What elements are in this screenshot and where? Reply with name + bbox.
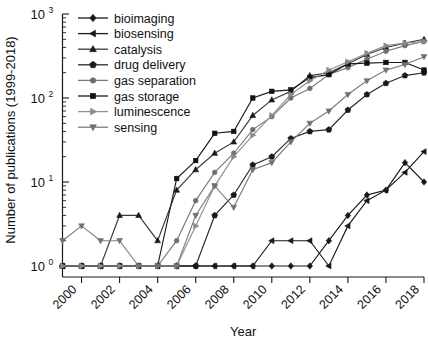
data-point-triangle-down xyxy=(231,205,237,210)
x-tick-label: 2000 xyxy=(50,282,80,312)
legend-label-drug-delivery: drug delivery xyxy=(114,58,186,72)
data-point-square xyxy=(384,60,389,65)
data-point-triangle-left xyxy=(89,30,95,37)
y-tick-label: 10 xyxy=(31,7,45,22)
data-point-circle xyxy=(90,78,96,84)
data-point-triangle-down xyxy=(193,213,199,218)
data-point-triangle-down xyxy=(364,79,370,84)
y-tick-exponent: 0 xyxy=(49,257,54,267)
data-point-triangle-down xyxy=(326,109,332,114)
data-point-square xyxy=(90,93,95,98)
x-tick-label: 2014 xyxy=(316,282,346,312)
legend-label-bioimaging: bioimaging xyxy=(114,12,175,26)
data-point-square xyxy=(250,96,255,101)
y-tick-exponent: 1 xyxy=(49,173,54,183)
data-point-diamond xyxy=(288,263,293,270)
data-point-square xyxy=(231,129,236,134)
publications-by-topic-chart: 1001011021032000200220042006200820102012… xyxy=(0,0,428,341)
data-point-pentagon xyxy=(402,72,408,78)
data-point-pentagon xyxy=(307,128,313,134)
data-point-triangle-up xyxy=(212,150,218,155)
y-tick-label: 10 xyxy=(31,91,45,106)
data-point-circle xyxy=(174,238,179,243)
x-tick-label: 2004 xyxy=(126,282,156,312)
data-point-triangle-left xyxy=(269,238,274,244)
data-point-square xyxy=(212,131,217,136)
x-axis-title: Year xyxy=(230,324,257,339)
data-point-circle xyxy=(384,49,389,54)
data-point-triangle-down xyxy=(60,239,66,244)
data-point-triangle-left xyxy=(307,238,312,244)
y-tick-label: 10 xyxy=(31,259,45,274)
data-point-square xyxy=(422,68,427,73)
series-line xyxy=(63,163,425,266)
data-point-diamond xyxy=(269,263,274,270)
series-biosensing xyxy=(59,149,426,269)
data-point-diamond xyxy=(90,14,96,22)
x-tick-label: 2012 xyxy=(278,282,308,312)
x-tick-label: 2008 xyxy=(202,282,232,312)
legend-label-catalysis: catalysis xyxy=(114,43,162,57)
data-point-triangle-down xyxy=(250,168,256,173)
legend-label-biosensing: biosensing xyxy=(114,27,174,41)
data-point-circle xyxy=(212,170,217,175)
data-point-triangle-down xyxy=(383,68,389,73)
data-point-pentagon xyxy=(364,91,370,97)
x-tick-label: 2018 xyxy=(393,282,423,312)
data-point-triangle-down xyxy=(79,224,85,229)
series-line xyxy=(63,152,425,266)
data-point-circle xyxy=(250,127,255,132)
legend-label-sensing: sensing xyxy=(114,121,157,135)
x-tick-label: 2016 xyxy=(355,282,385,312)
y-axis-title: Number of publications (1999-2018) xyxy=(3,36,18,243)
series-bioimaging xyxy=(60,159,427,269)
legend-label-luminescence: luminescence xyxy=(114,105,190,119)
data-point-square xyxy=(174,176,179,181)
data-point-circle xyxy=(307,86,312,91)
x-tick-label: 2010 xyxy=(240,282,270,312)
data-point-triangle-right xyxy=(91,108,97,115)
data-point-pentagon xyxy=(383,80,389,86)
data-point-pentagon xyxy=(250,162,256,168)
y-tick-label: 10 xyxy=(31,175,45,190)
data-point-square xyxy=(193,158,198,163)
legend-label-gas-storage: gas storage xyxy=(114,90,179,104)
x-tick-label: 2002 xyxy=(88,282,118,312)
y-tick-exponent: 3 xyxy=(49,5,54,15)
x-tick-label: 2006 xyxy=(164,282,194,312)
data-point-pentagon xyxy=(90,61,97,67)
series-line xyxy=(63,57,425,266)
data-point-square xyxy=(270,89,275,94)
data-point-triangle-left xyxy=(288,238,293,244)
data-point-circle xyxy=(193,198,198,203)
data-point-square xyxy=(365,61,370,66)
data-point-triangle-left xyxy=(326,263,331,269)
y-tick-exponent: 2 xyxy=(49,89,54,99)
legend-label-gas-separation: gas separation xyxy=(114,74,196,88)
data-point-triangle-left xyxy=(364,198,369,204)
data-point-square xyxy=(289,88,294,93)
